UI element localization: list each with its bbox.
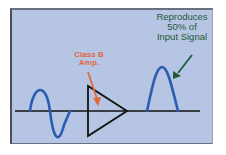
output-label-line3: Input Signal: [146, 32, 218, 42]
output-pointer-arrow-icon: [173, 55, 192, 79]
amp-label-line2: Amp.: [64, 59, 114, 67]
amp-pointer-arrow-icon: [88, 72, 101, 106]
amp-label: Class B Amp.: [64, 51, 114, 68]
output-label: Reproduces 50% of Input Signal: [146, 12, 218, 42]
input-sine-wave: [30, 90, 70, 137]
